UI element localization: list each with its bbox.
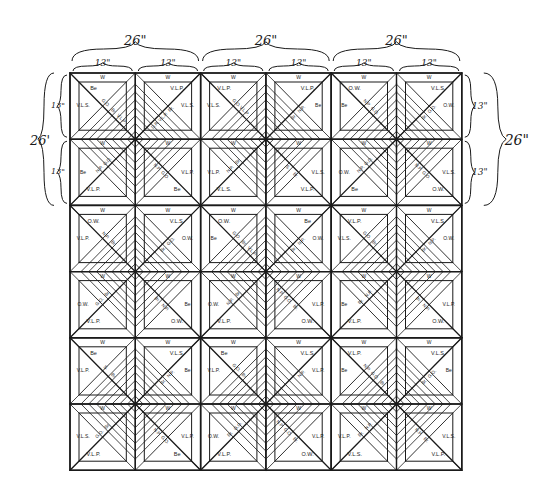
strip-line <box>369 167 396 195</box>
strip-line <box>128 256 136 264</box>
mitre-line <box>453 130 462 139</box>
quilt-cell: WV.L.P.BeN.P.G.O.Br. <box>331 338 396 404</box>
strip-line <box>135 217 162 245</box>
strip-line <box>247 291 266 311</box>
strip-fabric-label: Br. <box>371 239 379 247</box>
quilt-cell: WBeV.L.P.G.O.N.P. <box>135 404 200 470</box>
strip-fabric-label: Br. <box>110 372 118 380</box>
strip-line <box>104 139 120 155</box>
border-label: W <box>427 74 432 80</box>
quilt-cell: WO.W.V.L.P.N.P.Br. <box>70 205 135 271</box>
strip-line <box>155 252 174 272</box>
strip-line <box>108 432 135 460</box>
strip-line <box>397 388 405 396</box>
mitre-line <box>126 205 135 214</box>
strip-line <box>412 139 428 155</box>
strip-line <box>424 244 451 272</box>
strip-line <box>239 167 266 195</box>
dimension-label: 13" <box>472 167 488 177</box>
strip-line <box>104 272 120 288</box>
strip-line <box>81 244 108 272</box>
corner-fabric-label: V.L.P. <box>87 451 101 457</box>
strip-line <box>285 252 304 272</box>
strip-line <box>151 404 167 420</box>
strip-line <box>135 123 143 131</box>
strip-line <box>416 139 435 159</box>
strip-line <box>250 272 258 280</box>
strip-line <box>258 388 266 396</box>
side-fabric-label: Be <box>80 169 86 175</box>
side-fabric-label: V.L.S. <box>312 169 325 175</box>
strip-line <box>293 376 320 404</box>
strip-fabric-label: Br. <box>241 372 249 380</box>
mitre-line <box>397 338 406 347</box>
border-label: W <box>361 74 366 80</box>
strip-line <box>120 240 136 256</box>
quilt-diagram: 13"13"13"13"13"13"26"26"26"13"13"26'13"1… <box>0 0 543 504</box>
strip-fabric-label: N.P. <box>153 162 162 171</box>
strip-line <box>120 373 136 389</box>
border-label: W <box>296 140 301 146</box>
corner-fabric-label: V.L.S. <box>347 451 362 457</box>
corner-fabric-label: V.L.S. <box>300 350 315 356</box>
mitre-line <box>397 329 406 338</box>
mitre-line <box>192 139 201 148</box>
mitre-line <box>453 395 462 404</box>
mitre-line <box>331 139 340 148</box>
strip-line <box>135 287 151 303</box>
side-fabric-label: O.W. <box>77 301 88 307</box>
strip-line <box>285 139 304 159</box>
quilt-cell: WV.L.P.O.W.G.O.Br. <box>70 272 135 338</box>
strip-line <box>108 299 135 327</box>
strip-line <box>274 272 282 280</box>
strip-line <box>120 287 136 303</box>
border-label: W <box>231 405 236 411</box>
side-fabric-label: V.L.S. <box>207 102 220 108</box>
quilt-cell: WO.W.BeN.P.G.O. <box>331 73 396 139</box>
border-label: W <box>166 207 171 213</box>
strip-line <box>416 120 435 140</box>
dimension-label: 26" <box>504 132 529 148</box>
mitre-line <box>257 461 266 470</box>
strip-line <box>416 404 435 424</box>
strip-line <box>381 396 389 404</box>
side-fabric-label: O.W. <box>313 235 324 241</box>
strip-line <box>397 256 405 264</box>
mitre-line <box>453 404 462 413</box>
mitre-line <box>397 196 406 205</box>
strip-line <box>397 349 424 377</box>
quilt-cell: WV.L.P.V.L.S.Br.N.P. <box>397 404 462 470</box>
strip-line <box>293 112 320 140</box>
strip-line <box>285 384 304 404</box>
side-fabric-label: O.W. <box>208 433 219 439</box>
strip-line <box>120 155 136 171</box>
strip-line <box>377 424 396 444</box>
border-label: W <box>296 405 301 411</box>
border-label: W <box>427 405 432 411</box>
strip-line <box>81 112 108 140</box>
side-fabric-label: O.W. <box>208 301 219 307</box>
strip-line <box>247 100 266 120</box>
strip-fabric-label: Br. <box>104 290 112 298</box>
strip-line <box>397 424 416 444</box>
quilt-cell: WV.L.P.BeBr.N.P. <box>331 272 396 338</box>
strip-line <box>151 272 167 288</box>
mitre-line <box>192 395 201 404</box>
strip-line <box>135 420 151 436</box>
border-label: W <box>361 339 366 345</box>
strip-line <box>212 244 239 272</box>
strip-line <box>389 123 397 131</box>
quilt-cell: WO.W.V.L.P.N.P.Br. <box>397 272 462 338</box>
mitre-line <box>388 196 397 205</box>
border-label: W <box>100 140 105 146</box>
border-label: W <box>166 339 171 345</box>
side-fabric-label: V.L.P. <box>207 367 220 373</box>
strip-line <box>128 388 136 396</box>
strip-fabric-label: V.L.P. <box>116 113 128 125</box>
strip-line <box>274 404 282 412</box>
mitre-line <box>322 395 331 404</box>
strip-line <box>258 256 266 264</box>
strip-line <box>404 396 412 404</box>
strip-line <box>266 217 293 245</box>
strip-line <box>235 272 251 288</box>
